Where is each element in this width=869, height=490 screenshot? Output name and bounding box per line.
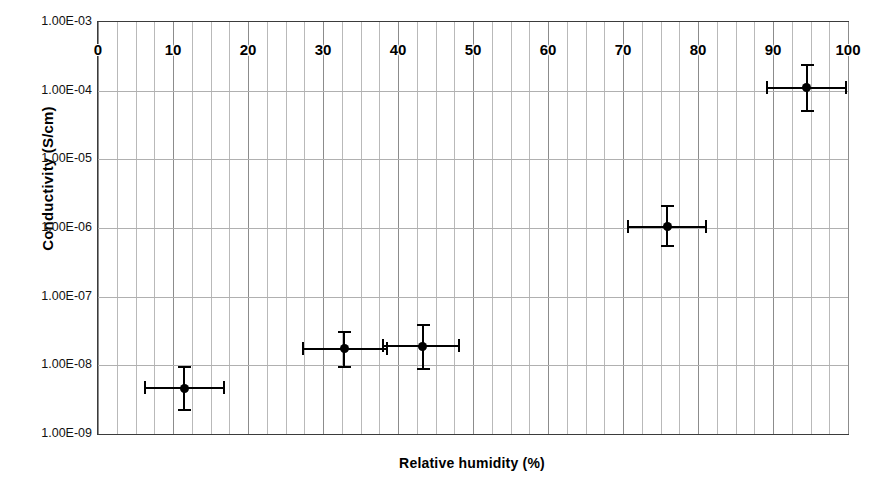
data-point-marker — [340, 344, 349, 353]
x-gridline-major — [848, 22, 849, 434]
y-error-bar-cap — [178, 409, 191, 411]
data-point-marker — [180, 384, 189, 393]
x-axis-tick-label: 10 — [148, 42, 198, 58]
x-error-bar-cap — [382, 339, 384, 352]
x-axis-tick-label: 60 — [523, 42, 573, 58]
x-error-bar-cap — [627, 220, 629, 233]
y-gridline — [98, 365, 848, 366]
y-error-bar-cap — [801, 64, 814, 66]
y-axis-tick-label: 1.00E-08 — [8, 358, 92, 370]
y-gridline — [98, 228, 848, 229]
y-error-bar-cap — [338, 331, 351, 333]
y-gridline — [98, 297, 848, 298]
y-axis-tick-label: 1.00E-07 — [8, 290, 92, 302]
y-axis-tick-label: 1.00E-06 — [8, 221, 92, 233]
x-axis-tick-label: 30 — [298, 42, 348, 58]
x-error-bar-cap — [223, 381, 225, 394]
x-axis-title: Relative humidity (%) — [97, 455, 847, 471]
plot-inner: 0102030405060708090100 — [98, 22, 848, 434]
x-error-bar-cap — [458, 339, 460, 352]
x-axis-tick-label: 70 — [598, 42, 648, 58]
x-axis-tick-label: 100 — [823, 42, 869, 58]
y-gridline — [98, 159, 848, 160]
chart-figure: Conductivity (S/cm) 1.00E-031.00E-041.00… — [0, 0, 869, 490]
x-axis-tick-label: 0 — [73, 42, 123, 58]
x-axis-tick-label: 90 — [748, 42, 798, 58]
x-axis-tick-label: 20 — [223, 42, 273, 58]
x-error-bar-cap — [766, 81, 768, 94]
y-error-bar-cap — [338, 366, 351, 368]
data-point-marker — [418, 342, 427, 351]
x-error-bar-cap — [144, 381, 146, 394]
y-error-bar-cap — [801, 110, 814, 112]
y-error-bar-cap — [661, 205, 674, 207]
y-axis-tick-labels: 1.00E-031.00E-041.00E-051.00E-061.00E-07… — [0, 0, 92, 490]
x-axis-tick-label: 50 — [448, 42, 498, 58]
y-error-bar-cap — [417, 324, 430, 326]
y-axis-tick-label: 1.00E-04 — [8, 84, 92, 96]
y-error-bar-cap — [178, 366, 191, 368]
y-axis-tick-label: 1.00E-03 — [8, 15, 92, 27]
x-error-bar-cap — [845, 81, 847, 94]
x-error-bar-cap — [302, 342, 304, 355]
y-axis-tick-label: 1.00E-09 — [8, 427, 92, 439]
x-error-bar-cap — [386, 342, 388, 355]
y-axis-tick-label: 1.00E-05 — [8, 152, 92, 164]
y-error-bar-cap — [661, 245, 674, 247]
y-gridline — [98, 91, 848, 92]
plot-area: 0102030405060708090100 — [97, 21, 849, 435]
x-axis-tick-label: 80 — [673, 42, 723, 58]
y-error-bar-cap — [417, 368, 430, 370]
x-error-bar-cap — [705, 220, 707, 233]
data-point-marker — [663, 222, 672, 231]
x-axis-tick-label: 40 — [373, 42, 423, 58]
